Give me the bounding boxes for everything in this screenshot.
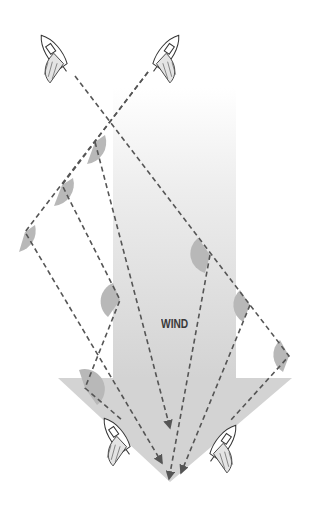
tack-wedge (273, 340, 289, 372)
wind-label: WIND (161, 317, 188, 331)
sailboat-icon (148, 31, 196, 83)
wind-arrow (58, 88, 292, 482)
wind-shift-tacking-diagram (0, 0, 313, 512)
sailboat-icon (25, 31, 73, 83)
wind-arrow-shaft (113, 88, 236, 379)
